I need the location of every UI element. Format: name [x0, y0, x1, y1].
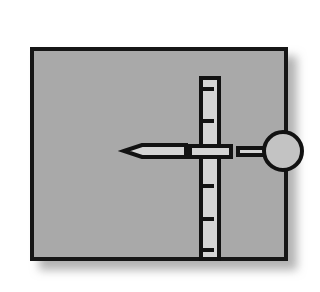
slider-crossbar-handle[interactable] — [190, 146, 231, 157]
track-tick-5 — [201, 248, 214, 252]
track-tick-3 — [201, 184, 214, 188]
vertical-slider-track[interactable] — [201, 78, 219, 259]
track-tick-4 — [201, 217, 214, 221]
track-tick-1 — [201, 87, 214, 91]
circular-knob[interactable] — [264, 132, 302, 170]
slider-mechanism-diagram — [0, 0, 320, 292]
slider-track-group[interactable] — [201, 78, 219, 259]
arrow-indicator — [124, 145, 186, 157]
track-tick-2 — [201, 119, 214, 123]
diagram-canvas — [0, 0, 320, 292]
